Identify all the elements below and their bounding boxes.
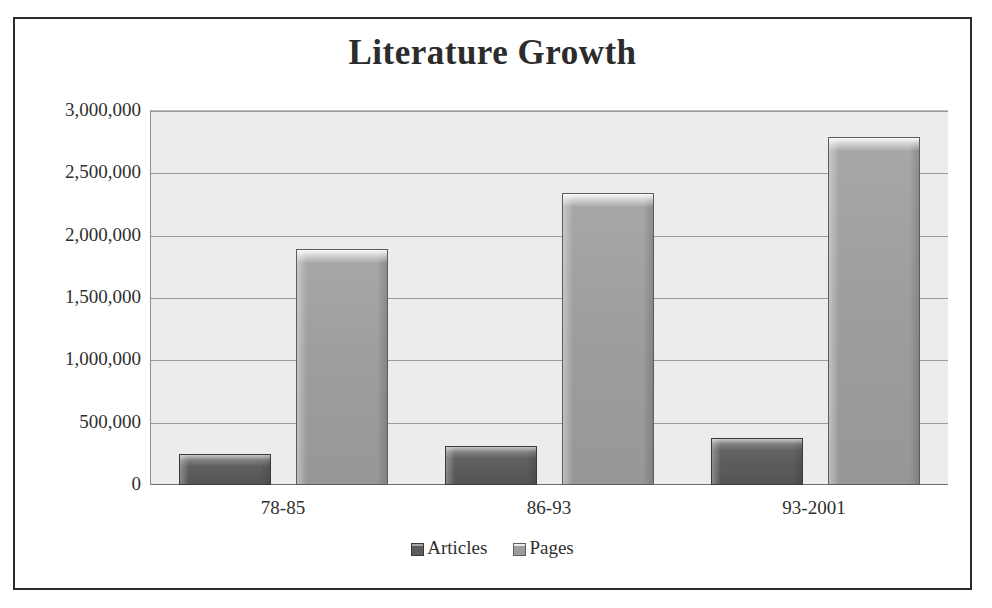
legend-item-pages[interactable]: Pages [513,537,573,559]
bar-pages-78-85[interactable] [296,249,388,485]
bar-fill [296,249,388,485]
bar-fill [445,446,537,485]
plot-area [150,110,948,485]
bar-pages-93-2001[interactable] [828,137,920,485]
bar-pages-86-93[interactable] [562,193,654,485]
bar-articles-93-2001[interactable] [711,438,803,485]
y-axis-tick-label: 500,000 [21,411,141,433]
bar-fill [711,438,803,485]
y-axis-tick-label: 0 [21,473,141,495]
bar-fill [562,193,654,485]
y-axis-tick-label: 2,000,000 [21,224,141,246]
y-axis-tick-label: 2,500,000 [21,161,141,183]
bar-articles-86-93[interactable] [445,446,537,485]
chart-frame: Literature Growth 3,000,0002,500,0002,00… [13,17,972,590]
x-axis-tick-label: 93-2001 [681,497,947,519]
x-axis-tick-label: 86-93 [416,497,682,519]
legend-label: Articles [427,537,487,559]
chart-title: Literature Growth [15,33,970,73]
bar-fill [179,454,271,485]
articles-swatch-icon [411,543,424,556]
chart-legend: ArticlesPages [15,537,970,559]
x-axis-tick-label: 78-85 [150,497,416,519]
y-axis-tick-label: 1,000,000 [21,348,141,370]
pages-swatch-icon [513,543,526,556]
x-axis-tick-labels: 78-8586-9393-2001 [150,497,947,531]
gridline [151,111,948,112]
bar-fill [828,137,920,485]
legend-label: Pages [529,537,573,559]
legend-item-articles[interactable]: Articles [411,537,487,559]
y-axis-tick-label: 1,500,000 [21,286,141,308]
y-axis-tick-labels: 3,000,0002,500,0002,000,0001,500,0001,00… [15,110,141,484]
y-axis-tick-label: 3,000,000 [21,99,141,121]
bar-articles-78-85[interactable] [179,454,271,485]
